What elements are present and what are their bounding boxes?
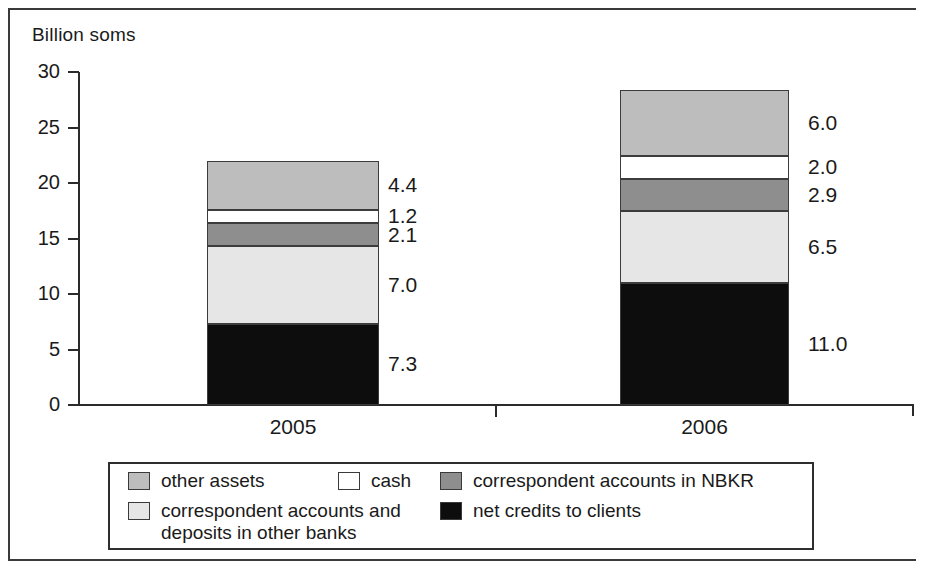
legend-swatch-icon: [128, 472, 150, 490]
legend-row-2: correspondent accounts and deposits in o…: [110, 500, 812, 528]
legend-swatch-icon: [440, 472, 462, 490]
legend-row-1: other assetscashcorrespondent accounts i…: [110, 470, 812, 498]
legend-item: net credits to clients: [440, 500, 641, 522]
legend-item-label: net credits to clients: [473, 500, 641, 522]
legend-item: correspondent accounts in NBKR: [440, 470, 754, 492]
legend-swatch-icon: [338, 472, 360, 490]
legend-item-label: cash: [371, 470, 411, 492]
legend-item: correspondent accounts and deposits in o…: [128, 500, 401, 544]
legend-item-label: other assets: [161, 470, 265, 492]
legend-swatch-icon: [128, 502, 150, 520]
legend-item-label: correspondent accounts and deposits in o…: [161, 500, 401, 544]
chart-legend: other assetscashcorrespondent accounts i…: [108, 462, 814, 550]
legend-item: cash: [338, 470, 411, 492]
legend-item-label: correspondent accounts in NBKR: [473, 470, 754, 492]
y-axis-title: Billion soms: [32, 24, 136, 46]
legend-swatch-icon: [440, 502, 462, 520]
legend-item: other assets: [128, 470, 265, 492]
scanned-page: Billion soms 051015202530 7.37.02.11.24.…: [0, 0, 925, 571]
